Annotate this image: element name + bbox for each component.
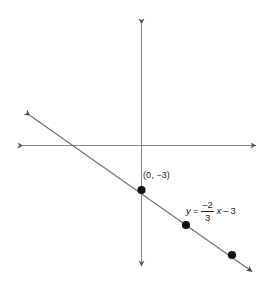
- equation-lhs: y: [186, 206, 191, 216]
- graph-canvas: [0, 0, 276, 288]
- fraction-numerator: –2: [201, 200, 214, 211]
- fraction-denominator: 3: [204, 212, 211, 223]
- coordinate-graph-figure: (0, −3) y = –2 3 x – 3: [0, 0, 276, 288]
- equation-minus-sign: –: [223, 206, 229, 216]
- data-point-third: [228, 251, 236, 259]
- equation-constant: 3: [230, 206, 235, 216]
- data-point-y-intercept: [137, 186, 145, 194]
- point-coordinate-label: (0, −3): [143, 171, 170, 180]
- equation-variable: x: [216, 206, 221, 216]
- equation-equals-sign: =: [192, 206, 199, 216]
- equation-label: y = –2 3 x – 3: [186, 200, 236, 222]
- data-point-second: [182, 221, 190, 229]
- equation-fraction: –2 3: [201, 200, 214, 222]
